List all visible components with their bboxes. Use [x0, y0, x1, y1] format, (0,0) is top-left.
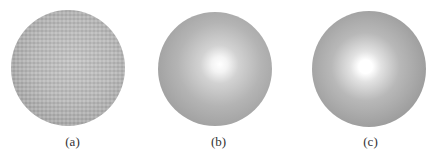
panel-c: (c) [290, 0, 435, 156]
panel-label-a: (a) [0, 134, 145, 150]
sphere-a [11, 10, 125, 126]
panel-label-c: (c) [298, 134, 435, 150]
panel-a: (a) [0, 0, 145, 156]
panel-b: (b) [145, 0, 290, 156]
sphere-c [312, 11, 426, 127]
panel-label-b: (b) [146, 134, 291, 150]
sphere-texture [11, 10, 125, 126]
sphere-b [158, 12, 272, 126]
